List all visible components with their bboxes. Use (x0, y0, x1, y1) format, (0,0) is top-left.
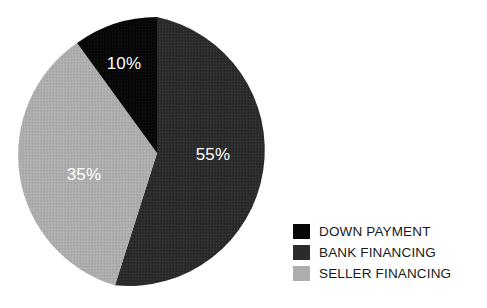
legend-swatch-bank-financing (293, 245, 310, 260)
legend-label-seller-financing: SELLER FINANCING (319, 266, 451, 281)
pie-label-bank-financing: 55% (196, 145, 231, 164)
legend-item-down-payment[interactable]: DOWN PAYMENT (293, 221, 485, 242)
chart-legend: DOWN PAYMENT BANK FINANCING SELLER FINAN… (293, 221, 485, 284)
legend-item-bank-financing[interactable]: BANK FINANCING (293, 242, 485, 263)
legend-label-bank-financing: BANK FINANCING (319, 245, 436, 260)
legend-swatch-seller-financing (293, 266, 310, 281)
legend-label-down-payment: DOWN PAYMENT (319, 224, 431, 239)
pie-label-seller-financing: 35% (67, 165, 102, 184)
pie-label-down-payment: 10% (107, 54, 142, 73)
legend-swatch-down-payment (293, 224, 310, 239)
legend-item-seller-financing[interactable]: SELLER FINANCING (293, 263, 485, 284)
pie-chart: 55% 35% 10% DOWN PAYMENT BANK FINANCING … (0, 0, 487, 308)
